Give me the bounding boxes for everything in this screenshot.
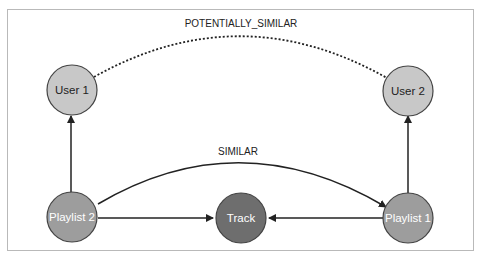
node-user2: User 2	[383, 66, 433, 116]
node-playlist1: Playlist 1	[383, 193, 433, 243]
node-label-user1: User 1	[55, 84, 89, 96]
node-label-user2: User 2	[391, 85, 425, 97]
edge-label-similar: SIMILAR	[218, 146, 258, 157]
node-label-playlist1: Playlist 1	[385, 212, 431, 224]
edge-label-potentially-similar: POTENTIALLY_SIMILAR	[185, 18, 298, 29]
edge-potentially-similar: POTENTIALLY_SIMILAR	[94, 18, 387, 78]
node-label-playlist2: Playlist 2	[49, 211, 95, 223]
node-track: Track	[216, 193, 266, 243]
node-user1: User 1	[47, 65, 97, 115]
node-label-track: Track	[227, 212, 256, 224]
graph-diagram: POTENTIALLY_SIMILAR SIMILAR User 1 User …	[0, 0, 483, 258]
node-playlist2: Playlist 2	[47, 192, 97, 242]
